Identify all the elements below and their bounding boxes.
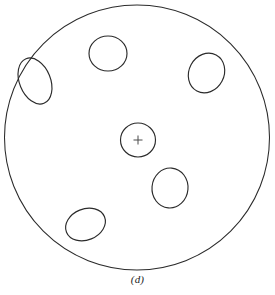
inclusion-top-circle [89,36,127,71]
inclusion-group [12,36,232,247]
figure-caption: (d) [0,273,275,285]
figure-diagram [0,0,275,295]
inclusion-upper-left-ellipse [12,53,59,109]
inclusion-right-ellipse [181,47,231,100]
figure-container: (d) [0,0,275,295]
outer-circle-boundary [5,5,270,270]
inclusion-lower-right-circle [150,167,189,210]
center-cross-icon [134,136,143,145]
inclusion-bottom-left-ellipse [61,202,111,246]
